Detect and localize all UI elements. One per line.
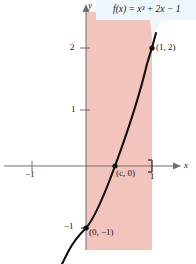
graph-canvas [0, 0, 196, 264]
point-label-one-two: (1, 2) [156, 43, 176, 52]
point-marker-one-two [149, 45, 154, 50]
y-tick-label-two: 2 [70, 43, 75, 52]
x-tick-label-neg-one: −1 [25, 170, 35, 179]
x-axis-label: x [184, 161, 188, 170]
y-tick-label-neg-one: −1 [64, 222, 74, 231]
x-tick-label-one: 1 [150, 172, 155, 181]
point-label-zero-neg-one: (0, −1) [89, 228, 114, 237]
y-tick-label-one: 1 [71, 105, 76, 114]
y-axis-label: y [88, 1, 92, 10]
point-marker-zero-neg-one [83, 225, 88, 230]
equation-label: f(x) = x³ + 2x − 1 [113, 5, 180, 15]
point-label-root-c: (c, 0) [116, 169, 135, 178]
function-graph-figure: f(x) = x³ + 2x − 1 x y 2 1 −1 −1 1 (1, 2… [0, 0, 196, 264]
x-axis-arrowhead [173, 163, 181, 170]
